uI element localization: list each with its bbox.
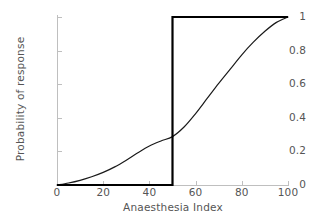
x-tick-label: 40	[129, 187, 169, 198]
plot-canvas	[57, 17, 288, 185]
x-tick-mark	[288, 181, 289, 185]
x-tick-label: 60	[176, 187, 216, 198]
x-tick-label: 80	[222, 187, 262, 198]
x-tick-label: 100	[268, 187, 308, 198]
x-tick-label: 0	[37, 187, 77, 198]
plot-area	[57, 17, 288, 185]
x-tick-label: 20	[83, 187, 123, 198]
x-axis-title: Anaesthesia Index	[57, 201, 289, 213]
y-axis-title: Probability of response	[14, 19, 26, 179]
chart-figure: 00.20.40.60.81 020406080100 Anaesthesia …	[0, 0, 313, 220]
